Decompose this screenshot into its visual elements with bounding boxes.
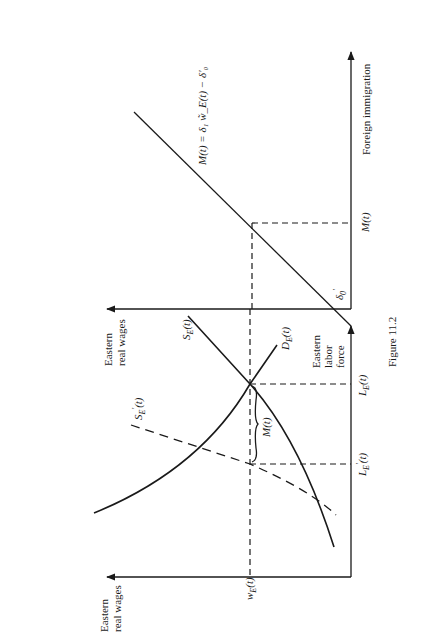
labor-panel-wage-axis-label: Eastern real wages xyxy=(98,585,123,632)
immigration-equation-label: M(t) = δ₁ w̃_E(t) − δ′₀ xyxy=(196,66,209,166)
M-tick-label: M(t) xyxy=(359,212,372,233)
foreign-immigration-label: Foreign immigration xyxy=(360,63,372,155)
DE-label: DE(t) xyxy=(279,326,294,351)
labor-force-axis-label: Eastern labor force xyxy=(310,332,346,368)
figure-11-2: Foreign immigration M(t) δ0′ M(t) = δ₁ w… xyxy=(0,0,423,640)
immigration-function-line xyxy=(134,112,351,326)
figure-caption: Figure 11.2 xyxy=(386,317,398,367)
LE-tick-label: LE(t) xyxy=(356,374,371,397)
wE-tick-label: wE(t) xyxy=(243,577,258,600)
immigration-brace xyxy=(252,386,258,462)
LE-prime-tick-label: LE′(t) xyxy=(355,453,371,477)
SE-prime-label: SE′(t) xyxy=(131,397,147,420)
labor-market-panel: SE(t) DE(t) SE′(t) M(t) Eastern labor fo… xyxy=(94,309,371,632)
immigration-panel-wage-axis-label: Eastern real wages xyxy=(102,319,127,366)
immigration-panel: Foreign immigration M(t) δ0′ M(t) = δ₁ w… xyxy=(102,52,372,366)
delta-intercept-label: δ0′ xyxy=(332,289,348,300)
brace-M-label: M(t) xyxy=(260,417,273,438)
